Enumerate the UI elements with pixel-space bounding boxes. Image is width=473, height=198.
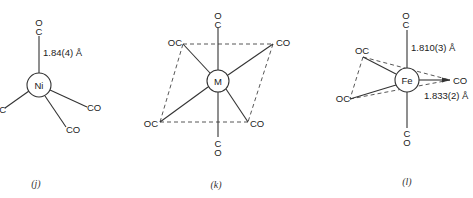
panel-l: Fe O C 1.810(3) Å 1.833(2) Å OC OC CO C … (336, 10, 469, 188)
l-lower-left-ligand: OC (336, 93, 350, 104)
m-label: M (214, 76, 222, 87)
caption-l: (l) (402, 176, 412, 188)
j-distance-label: 1.84(4) Å (43, 47, 83, 58)
k-bottom-o: O (214, 147, 221, 158)
k-bond-upper-right (228, 44, 273, 75)
k-top-c: C (215, 19, 222, 30)
j-right-ligand: CO (87, 102, 101, 113)
panel-j: Ni O C 1.84(4) Å OC CO CO (j) (0, 17, 101, 190)
l-right-arrowhead (442, 78, 450, 83)
l-bond-upper-left (363, 57, 396, 74)
j-bottom-ligand: CO (66, 124, 80, 135)
bond-ni-left (5, 91, 29, 108)
l-dash-left (350, 57, 363, 99)
l-right-ligand: CO (453, 75, 467, 86)
panel-k: M O C OC CO OC CO C O (k) (144, 10, 291, 191)
l-bottom-o: O (403, 137, 410, 148)
l-bond-lower-left (350, 85, 396, 99)
caption-j: (j) (31, 178, 41, 190)
ni-label: Ni (35, 80, 44, 91)
l-equatorial-distance-label: 1.833(2) Å (424, 90, 469, 101)
l-axial-distance-label: 1.810(3) Å (411, 42, 456, 53)
fe-label: Fe (401, 75, 412, 86)
k-lower-right-ligand: CO (250, 118, 264, 129)
k-dash-right (248, 44, 273, 122)
k-lower-left-ligand: OC (144, 118, 158, 129)
k-upper-right-ligand: CO (276, 37, 290, 48)
j-top-c: C (36, 26, 43, 37)
k-upper-left-ligand: OC (168, 37, 182, 48)
bond-ni-bottom (45, 96, 66, 127)
l-top-c: C (403, 19, 410, 30)
k-bond-lower-right (226, 89, 248, 122)
carbonyl-structures-figure: Ni O C 1.84(4) Å OC CO CO (j) M O C OC C… (0, 0, 473, 198)
k-bond-upper-left (183, 44, 210, 73)
l-upper-left-ligand: OC (355, 45, 369, 56)
caption-k: (k) (210, 179, 222, 191)
bond-ni-right (50, 90, 87, 107)
k-dash-left (160, 44, 183, 122)
k-bond-lower-left (160, 87, 208, 122)
j-left-ligand: OC (0, 104, 6, 115)
